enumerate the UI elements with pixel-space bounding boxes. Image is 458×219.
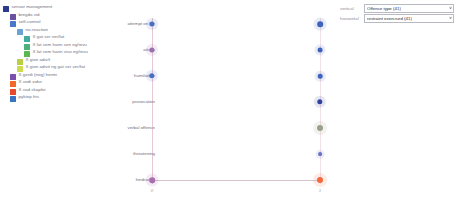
legend-color-swatch <box>10 21 16 27</box>
legend-color-swatch <box>10 14 16 20</box>
legend-item-label: X gion adiv/t <box>26 58 51 63</box>
legend-item[interactable]: sensor management <box>3 5 143 12</box>
chevron-down-icon: ∨ <box>448 16 452 20</box>
legend-color-swatch <box>3 6 9 12</box>
scatter-plot: attempt on lifeattackhumiliationprovocat… <box>100 18 350 214</box>
legend-color-swatch <box>17 59 23 65</box>
legend-item-label: self-control <box>19 20 41 25</box>
legend-color-swatch <box>10 96 16 102</box>
legend-item-label: pyktep fris <box>19 95 40 100</box>
legend-color-swatch <box>10 74 16 80</box>
legend-color-swatch <box>10 89 16 95</box>
legend-color-swatch <box>24 36 30 42</box>
vertical-axis-select[interactable]: Offence type (41) ∨ <box>364 4 454 13</box>
category-label: threatening <box>133 148 155 160</box>
axis-controls: vertical Offence type (41) ∨ horizontal … <box>339 4 454 23</box>
data-point[interactable] <box>318 48 323 53</box>
legend-item-label: X vad skapfoi <box>19 88 46 93</box>
horizontal-axis-value: restraint exercised (41) <box>367 16 412 21</box>
legend-item-label: X gion adivit ng gat ser ver/fat <box>26 65 86 70</box>
category-label: provocation <box>132 96 155 108</box>
chevron-down-icon: ∨ <box>448 6 452 10</box>
legend-item-label: bregda vid <box>19 13 40 18</box>
horizontal-axis-select[interactable]: restraint exercised (41) ∨ <box>364 14 454 23</box>
category-label: verbal offence <box>127 122 155 134</box>
x-axis-tick-label: 0 <box>151 188 153 193</box>
horizontal-control-row: horizontal restraint exercised (41) ∨ <box>339 14 454 23</box>
legend-item-label: X lat sem hann sen eg/tevu <box>33 43 87 48</box>
data-point[interactable] <box>318 152 322 156</box>
legend-item-label: no-reaction <box>26 28 48 33</box>
data-point[interactable] <box>317 21 323 27</box>
x-axis-tick-label: 1 <box>319 188 321 193</box>
vertical-control-row: vertical Offence type (41) ∨ <box>339 4 454 13</box>
connector-line <box>152 180 320 181</box>
data-point[interactable] <box>149 177 155 183</box>
data-point[interactable] <box>317 125 323 131</box>
data-point[interactable] <box>317 177 323 183</box>
data-point[interactable] <box>318 74 323 79</box>
legend-item-label: X vodi vidur <box>19 80 42 85</box>
legend-color-swatch <box>10 81 16 87</box>
legend-item-label: sensor management <box>12 5 53 10</box>
legend-item-label: X lat sem hann viso eg/tevu <box>33 50 88 55</box>
vertical-control-label: vertical <box>339 6 364 11</box>
legend-item-label: X gerdi (nog) hermi <box>19 73 57 78</box>
legend-color-swatch <box>24 44 30 50</box>
legend-color-swatch <box>17 29 23 35</box>
vertical-axis-value: Offence type (41) <box>367 6 401 11</box>
legend-item-label: X gat ser ver/fat <box>33 35 65 40</box>
